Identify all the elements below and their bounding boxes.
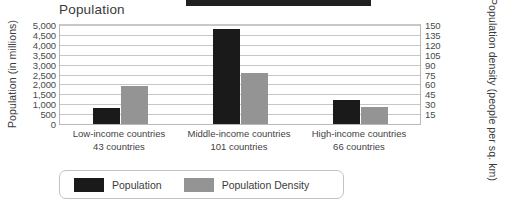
bar-population-density — [121, 86, 148, 124]
right-axis-tick-label: 105 — [425, 49, 457, 60]
bar-population — [213, 29, 240, 124]
left-axis-tick-label: 0 — [4, 119, 56, 130]
bar-population — [333, 100, 360, 124]
right-axis-tick-label: 30 — [425, 99, 457, 110]
left-axis-tick-label: 4,000 — [4, 39, 56, 50]
bar-population-density — [241, 73, 268, 124]
chart-title: Population — [59, 2, 125, 17]
right-axis-ticks: 153045607590105120135150 — [425, 24, 459, 125]
category-label-count: 66 countries — [299, 141, 419, 154]
right-axis-tick-label: 150 — [425, 20, 457, 31]
gridline — [60, 65, 420, 66]
plot-area — [59, 24, 421, 125]
left-axis-tick-label: 3,000 — [4, 59, 56, 70]
right-axis-title: Population density (people per sq. km) — [487, 0, 499, 138]
category-label-count: 101 countries — [179, 141, 299, 154]
chart-legend: PopulationPopulation Density — [59, 170, 344, 199]
legend-item: Population Density — [184, 178, 310, 192]
category-label-name: Middle-income countries — [188, 128, 291, 139]
category-label: High-income countries66 countries — [299, 128, 419, 153]
left-axis-tick-label: 1,500 — [4, 89, 56, 100]
legend-label: Population — [112, 179, 162, 191]
category-label: Middle-income countries101 countries — [179, 128, 299, 153]
category-label-name: Low-income countries — [73, 128, 165, 139]
category-label-name: High-income countries — [312, 128, 407, 139]
left-axis-tick-label: 500 — [4, 109, 56, 120]
left-axis-tick-label: 2,500 — [4, 69, 56, 80]
left-axis-tick-label: 2,000 — [4, 79, 56, 90]
right-axis-tick-label: 90 — [425, 59, 457, 70]
bar-population — [93, 108, 120, 124]
left-axis-ticks: 05001,0001,5002,0002,5003,0003,5004,0004… — [0, 24, 56, 125]
left-axis-tick-label: 4,500 — [4, 29, 56, 40]
right-axis-tick-label: 75 — [425, 69, 457, 80]
gridline — [60, 55, 420, 56]
right-axis-title-wrap: Population density (people per sq. km) — [455, 8, 527, 148]
category-label: Low-income countries43 countries — [59, 128, 179, 153]
left-axis-tick-label: 5,000 — [4, 20, 56, 31]
gridline — [60, 45, 420, 46]
bar-population-density — [361, 107, 388, 124]
legend-swatch — [74, 178, 104, 192]
top-edge-artifact — [186, 0, 371, 6]
legend-item: Population — [74, 178, 162, 192]
right-axis-tick-label: 60 — [425, 79, 457, 90]
left-axis-tick-label: 3,500 — [4, 49, 56, 60]
gridline — [60, 35, 420, 36]
category-label-count: 43 countries — [59, 141, 179, 154]
right-axis-tick-label: 120 — [425, 39, 457, 50]
right-axis-tick-label: 45 — [425, 89, 457, 100]
left-axis-tick-label: 1,000 — [4, 99, 56, 110]
right-axis-tick-label: 15 — [425, 109, 457, 120]
legend-swatch — [184, 178, 214, 192]
gridline — [60, 25, 420, 26]
legend-label: Population Density — [222, 179, 310, 191]
right-axis-tick-label: 135 — [425, 29, 457, 40]
